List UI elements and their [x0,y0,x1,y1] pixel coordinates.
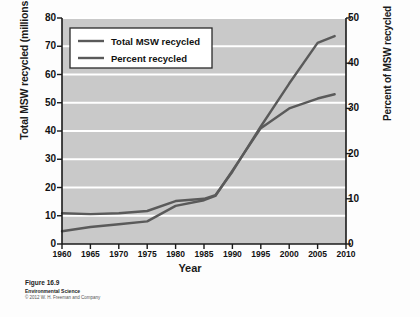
y-tick-label-right: 40 [348,58,374,68]
figure-caption: Figure 16.9 Environmental Science © 2012… [25,279,100,301]
figure-number: Figure 16.9 [25,279,100,288]
y-axis-left-title: Total MSW recycled (millions of metric t… [18,0,30,154]
y-tick-label-left: 10 [30,211,56,221]
y-tick-label-left: 70 [30,41,56,51]
figure-container: Total MSW recycled (millions of metric t… [0,0,420,317]
y-tick-label-right: 50 [348,13,374,23]
y-tick-label-left: 60 [30,70,56,80]
y-tick-label-right: 0 [348,239,374,249]
x-tick-label: 2010 [329,250,363,259]
y-tick-label-right: 10 [348,194,374,204]
legend-label: Total MSW recycled [111,36,200,47]
figure-source-book: Environmental Science [25,288,100,295]
y-tick-label-left: 40 [30,126,56,136]
y-tick-label-left: 50 [30,98,56,108]
x-axis-title: Year [60,262,320,274]
y-axis-right-title: Percent of MSW recycled [382,0,393,159]
y-tick-label-right: 20 [348,149,374,159]
figure-copyright: © 2012 W. H. Freeman and Company [25,295,100,301]
y-tick-label-right: 30 [348,103,374,113]
y-tick-label-left: 30 [30,154,56,164]
y-tick-label-left: 80 [30,13,56,23]
y-tick-label-left: 0 [30,239,56,249]
y-tick-label-left: 20 [30,183,56,193]
legend-label: Percent recycled [111,53,187,64]
